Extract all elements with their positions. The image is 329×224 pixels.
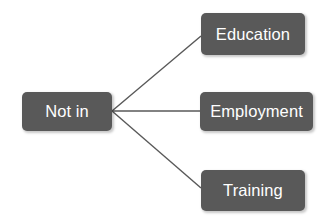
connector-not-in-to-training: [112, 111, 201, 188]
node-training[interactable]: Training: [201, 170, 305, 211]
node-training-label: Training: [223, 182, 283, 199]
connector-not-in-to-education: [112, 36, 201, 111]
node-employment[interactable]: Employment: [200, 92, 313, 131]
node-employment-label: Employment: [210, 103, 303, 120]
node-not-in[interactable]: Not in: [22, 92, 112, 131]
node-education-label: Education: [216, 25, 290, 42]
node-education[interactable]: Education: [201, 13, 305, 55]
node-not-in-label: Not in: [45, 103, 89, 120]
diagram-canvas: Not in Education Employment Training: [0, 0, 329, 224]
